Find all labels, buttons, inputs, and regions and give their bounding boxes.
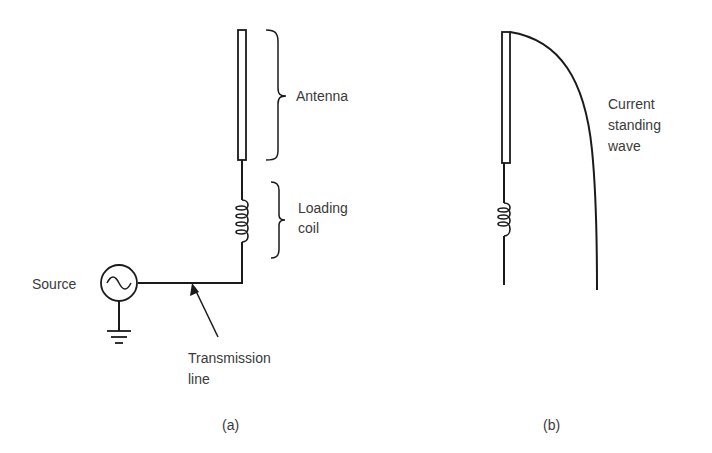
source-label: Source xyxy=(32,276,77,292)
transmission-line-label-line2: line xyxy=(188,371,210,387)
loading-coil-brace xyxy=(271,182,285,258)
current-standing-wave-curve xyxy=(510,32,597,290)
figure-a xyxy=(101,30,286,343)
antenna-element xyxy=(238,30,246,160)
standing-wave-label-line3: wave xyxy=(607,138,641,154)
loading-coil-label-line2: coil xyxy=(298,220,319,236)
figure-b-labels: Current standing wave (b) xyxy=(543,96,661,433)
figure-b-caption: (b) xyxy=(543,417,560,433)
antenna-brace xyxy=(266,30,286,160)
figure-b xyxy=(498,32,597,290)
figure-a-labels: Antenna Loading coil Source Transmission… xyxy=(32,88,348,433)
figure-a-caption: (a) xyxy=(222,417,239,433)
antenna-label: Antenna xyxy=(296,88,348,104)
loading-coil-icon-b xyxy=(498,203,510,236)
transmission-line-label-line1: Transmission xyxy=(188,350,271,366)
loading-coil-label-line1: Loading xyxy=(298,200,348,216)
transmission-line-pointer xyxy=(194,287,218,337)
loading-coil-icon xyxy=(236,200,248,242)
standing-wave-label-line1: Current xyxy=(608,96,655,112)
antenna-diagram: Antenna Loading coil Source Transmission… xyxy=(0,0,712,453)
ground-icon xyxy=(107,331,131,343)
transmission-line xyxy=(138,242,242,283)
standing-wave-label-line2: standing xyxy=(608,117,661,133)
antenna-element-b xyxy=(502,32,510,163)
sine-wave-icon xyxy=(107,277,131,289)
